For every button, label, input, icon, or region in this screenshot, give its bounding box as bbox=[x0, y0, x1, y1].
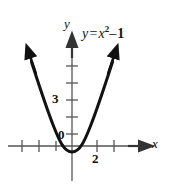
y-axis-group bbox=[66, 44, 78, 181]
y-tick-label-3: 3 bbox=[52, 92, 59, 105]
x-axis-label: x bbox=[152, 137, 158, 150]
y-axis-label: y bbox=[64, 17, 70, 30]
equation-constant: 1 bbox=[117, 26, 124, 41]
equation-label: y = x2– 1 bbox=[82, 25, 124, 41]
origin-label: 0 bbox=[58, 128, 65, 141]
equation-minus: – bbox=[109, 26, 116, 41]
x-tick-label-2: 2 bbox=[92, 152, 99, 165]
equation-equals: = bbox=[89, 26, 97, 41]
